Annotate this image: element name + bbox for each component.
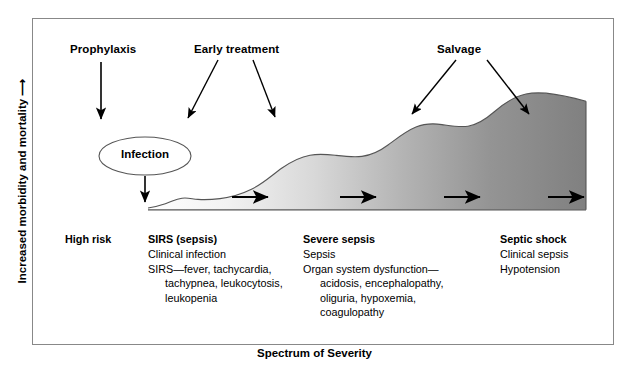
x-axis-title: Spectrum of Severity xyxy=(0,347,629,359)
stage-line: acidosis, encephalopathy, xyxy=(303,276,483,291)
stage-line: Hypotension xyxy=(500,262,620,277)
stage-line: coagulopathy xyxy=(303,305,483,320)
figure-root: Prophylaxis Early treatment Salvage Infe… xyxy=(0,0,629,365)
stage-column-sirs: SIRS (sepsis) Clinical infection SIRS—fe… xyxy=(148,232,308,305)
severity-curve xyxy=(148,93,586,210)
y-axis-title: Increased morbidity and mortality ⟶ xyxy=(15,31,29,331)
stage-heading: High risk xyxy=(65,232,111,247)
stage-line: Organ system dysfunction— xyxy=(303,262,483,277)
early-treatment-arrow-right xyxy=(253,60,275,117)
stage-heading: Severe sepsis xyxy=(303,232,483,247)
stage-line: tachypnea, leukocytosis, xyxy=(148,276,308,291)
stage-line: Clinical sepsis xyxy=(500,247,620,262)
stage-heading: Septic shock xyxy=(500,232,620,247)
stage-heading: SIRS (sepsis) xyxy=(148,232,308,247)
early-treatment-arrow-left xyxy=(188,60,218,118)
label-infection: Infection xyxy=(100,148,190,160)
stage-line: leukopenia xyxy=(148,291,308,306)
stage-column-severe-sepsis: Severe sepsis Sepsis Organ system dysfun… xyxy=(303,232,483,320)
stage-line: oliguria, hypoxemia, xyxy=(303,291,483,306)
stage-column-septic-shock: Septic shock Clinical sepsis Hypotension xyxy=(500,232,620,276)
salvage-arrow-left xyxy=(412,60,456,114)
stage-line: Sepsis xyxy=(303,247,483,262)
label-prophylaxis: Prophylaxis xyxy=(70,43,136,55)
stage-line: SIRS—fever, tachycardia, xyxy=(148,262,308,277)
stage-column-high-risk: High risk xyxy=(65,232,111,247)
label-salvage: Salvage xyxy=(437,43,481,55)
label-early-treatment: Early treatment xyxy=(194,43,279,55)
stage-line: Clinical infection xyxy=(148,247,308,262)
